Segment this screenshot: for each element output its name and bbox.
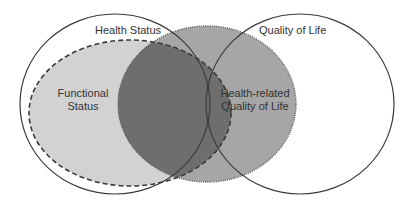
health-status-label: Health Status <box>95 24 161 37</box>
hrqol-label-line2: Quality of Life <box>215 100 295 113</box>
hrqol-label: Health-related Quality of Life <box>215 87 295 113</box>
functional-status-label-line1: Functional <box>48 87 118 100</box>
functional-status-label-line2: Status <box>48 100 118 113</box>
quality-of-life-label: Quality of Life <box>259 24 326 37</box>
functional-status-label: Functional Status <box>48 87 118 113</box>
hrqol-label-line1: Health-related <box>215 87 295 100</box>
